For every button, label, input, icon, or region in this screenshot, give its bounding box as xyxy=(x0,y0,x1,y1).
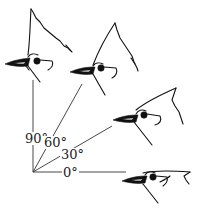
angle-label-0: 0° xyxy=(62,166,79,179)
crest-angle-diagram: 90° 60° 30° 0° xyxy=(0,0,203,212)
bird-head-30-icon xyxy=(113,88,183,145)
bird-head-60-icon xyxy=(70,23,138,95)
bird-head-90-icon xyxy=(5,9,72,82)
angle-label-30: 30° xyxy=(60,148,85,161)
bird-head-0-icon xyxy=(122,171,190,203)
